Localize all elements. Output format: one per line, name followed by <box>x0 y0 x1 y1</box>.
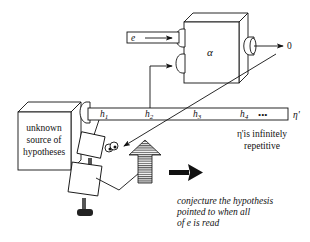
hypothesis-tape: h1 h2 h3 h4 ••• η' <box>88 108 301 121</box>
tape-ellipsis: ••• <box>258 110 267 120</box>
source-label-line-3: hypotheses <box>23 147 66 157</box>
robot-eyes-icon <box>105 142 118 152</box>
output-label: 0 <box>287 41 292 51</box>
input-port-hypothesis <box>176 54 185 73</box>
source-label-line-1: unknown <box>26 123 62 133</box>
caption-line-3: of e is read <box>177 218 219 228</box>
tape-note-line-1: η'is infinitely <box>237 129 287 139</box>
caption-line-1: conjecture the hypothesis <box>177 196 274 206</box>
caption-line-2: pointed to when all <box>176 207 250 217</box>
source-label-line-2: source of <box>26 135 62 145</box>
machine-alpha: α <box>176 13 256 83</box>
diagram-canvas: unknown source of hypotheses h1 h2 h3 h4… <box>0 0 310 242</box>
tape-end-label: η' <box>293 110 301 120</box>
h2-feed-arrow <box>150 66 172 108</box>
up-arrow-icon <box>129 140 161 183</box>
input-e-label: e <box>131 33 135 43</box>
machine-label: α <box>207 46 213 58</box>
tape-note-line-2: repetitive <box>244 141 280 151</box>
unknown-source-box: unknown source of hypotheses <box>18 102 81 170</box>
right-arrow-icon <box>169 164 203 181</box>
